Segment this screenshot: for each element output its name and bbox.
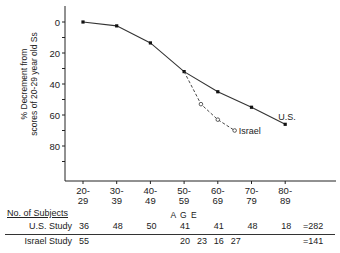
data-point-us bbox=[284, 123, 287, 126]
data-point-us bbox=[149, 41, 152, 44]
table-cell: 36 bbox=[79, 222, 89, 231]
x-tick-label: 69 bbox=[213, 195, 224, 206]
y-tick-label: 60 bbox=[49, 110, 60, 121]
table-cell: 50 bbox=[146, 222, 156, 231]
table-cell: 18 bbox=[281, 222, 291, 231]
series-label-israel: Israel bbox=[239, 126, 261, 136]
table-row-label: U.S. Study bbox=[4, 222, 72, 231]
x-tick-label: 59 bbox=[179, 195, 190, 206]
x-tick-label: 89 bbox=[280, 195, 291, 206]
y-tick-label: 40 bbox=[49, 79, 60, 90]
data-point-us bbox=[115, 24, 118, 27]
table-heading: No. of Subjects bbox=[7, 209, 68, 218]
series-line-israel bbox=[184, 72, 235, 131]
table-cell: 23 bbox=[197, 237, 207, 246]
y-tick-label: 80 bbox=[49, 141, 60, 152]
table-total: =141 bbox=[303, 237, 323, 246]
data-point-us bbox=[250, 106, 253, 109]
table-row-label: Israel Study bbox=[4, 237, 72, 246]
x-axis-title: A G E bbox=[170, 210, 197, 220]
series-labels: U.S.Israel bbox=[239, 112, 296, 136]
table-cell: 41 bbox=[180, 222, 190, 231]
table-cell: 27 bbox=[231, 237, 241, 246]
y-axis-title-line: scores of 20-29 year old Ss bbox=[29, 32, 39, 135]
x-tick-label: 39 bbox=[111, 195, 122, 206]
y-tick-label: 0 bbox=[55, 17, 60, 28]
data-point-us bbox=[81, 20, 84, 23]
data-point-israel bbox=[199, 102, 203, 106]
series-label-us: U.S. bbox=[278, 112, 296, 122]
y-axis-title: % Decrement fromscores of 20-29 year old… bbox=[19, 32, 39, 135]
x-tick-label: 79 bbox=[246, 195, 257, 206]
table-cell: 48 bbox=[113, 222, 123, 231]
table-cell: 48 bbox=[247, 222, 257, 231]
series-lines bbox=[81, 20, 286, 132]
x-tick-label: 49 bbox=[145, 195, 156, 206]
table-cell: 55 bbox=[79, 237, 89, 246]
data-point-us bbox=[216, 90, 219, 93]
x-tick-label: 29 bbox=[78, 195, 89, 206]
table-cell: 41 bbox=[214, 222, 224, 231]
data-point-israel bbox=[216, 118, 220, 122]
data-point-israel bbox=[233, 129, 237, 133]
table-cell: 20 bbox=[180, 237, 190, 246]
y-axis-title-line: % Decrement from bbox=[19, 49, 29, 120]
table-total: =282 bbox=[303, 222, 323, 231]
table-divider bbox=[5, 234, 335, 235]
table-cell: 16 bbox=[214, 237, 224, 246]
y-tick-label: 20 bbox=[49, 48, 60, 59]
